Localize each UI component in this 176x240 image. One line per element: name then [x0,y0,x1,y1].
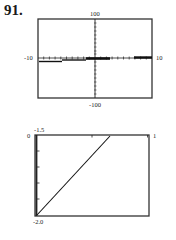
bottom-graph-line [37,136,110,215]
bottom-chart [35,135,149,216]
bottom-chart-frame [35,135,149,216]
top-chart [38,19,152,98]
charts-canvas [0,0,176,240]
